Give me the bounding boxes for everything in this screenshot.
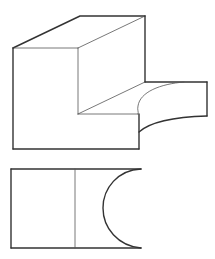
concave-cut-top-curve <box>138 82 184 114</box>
drawing-canvas <box>0 0 215 259</box>
upper-block-top-right-diagonal <box>78 16 145 48</box>
step-diagonal-edge <box>78 82 145 114</box>
isometric-view <box>13 16 207 149</box>
top-view-semicircle-cut <box>103 169 141 248</box>
upper-block-top-back-edge <box>13 16 145 48</box>
technical-drawing <box>0 0 215 259</box>
top-view <box>11 169 141 248</box>
concave-cut-bottom-curve <box>139 116 207 132</box>
